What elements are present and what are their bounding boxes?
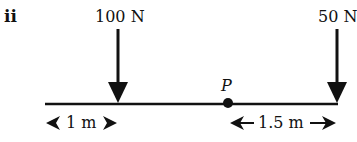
force-arrow-100n — [108, 29, 128, 103]
dimension-label-1-5m: 1.5 m — [258, 115, 304, 131]
dimension-label-1m: 1 m — [66, 115, 96, 131]
point-p-dot — [223, 98, 233, 108]
force-label-50n: 50 N — [318, 9, 357, 25]
force-label-100n: 100 N — [95, 9, 145, 25]
force-arrow-50n — [327, 29, 347, 103]
point-p-label: P — [221, 78, 232, 94]
part-label: ii — [4, 8, 17, 25]
